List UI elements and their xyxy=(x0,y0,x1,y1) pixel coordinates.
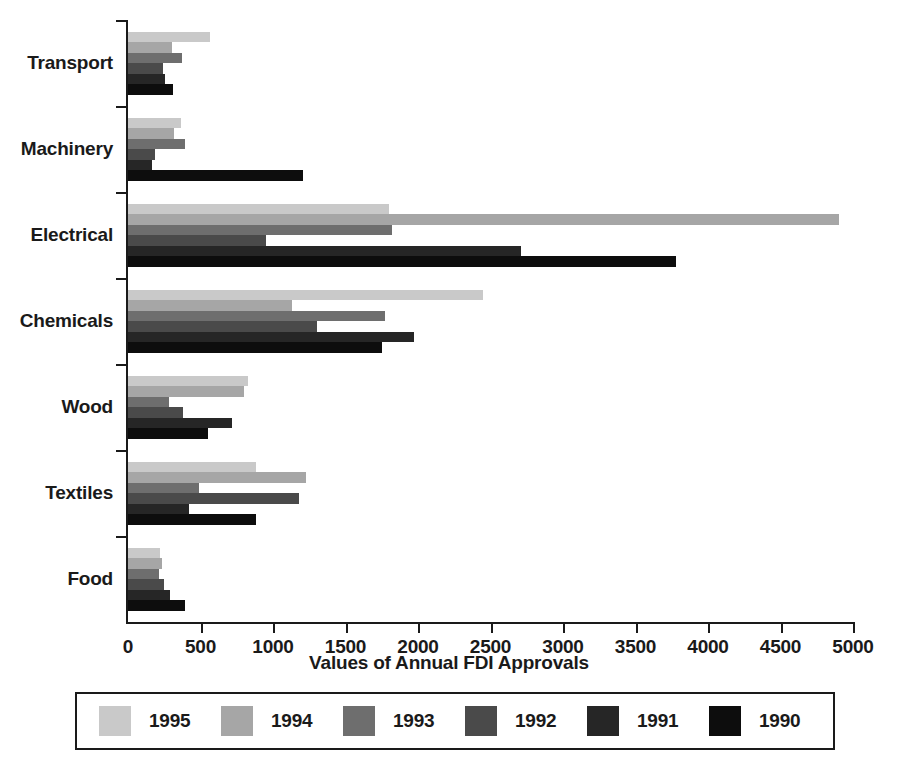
bar-food-1993 xyxy=(128,569,159,580)
y-axis-tick xyxy=(116,192,127,194)
bar-machinery-1992 xyxy=(128,149,155,160)
bar-chemicals-1994 xyxy=(128,300,292,311)
bar-wood-1993 xyxy=(128,397,169,408)
y-axis-tick xyxy=(116,106,127,108)
bar-food-1991 xyxy=(128,590,170,601)
bar-chemicals-1991 xyxy=(128,332,414,343)
bar-food-1994 xyxy=(128,558,162,569)
bar-chemicals-1995 xyxy=(128,290,483,301)
bar-machinery-1993 xyxy=(128,139,185,150)
x-axis-tick xyxy=(346,624,348,633)
bar-machinery-1991 xyxy=(128,160,152,171)
legend-swatch-1994 xyxy=(221,706,253,736)
y-axis-tick xyxy=(116,20,127,22)
legend-label-1994: 1994 xyxy=(271,710,312,732)
legend-label-1990: 1990 xyxy=(759,710,800,732)
x-axis-tick xyxy=(636,624,638,633)
bar-machinery-1990 xyxy=(128,170,303,181)
legend: 199519941993199219911990 xyxy=(75,692,835,750)
bar-food-1990 xyxy=(128,600,185,611)
bar-transport-1995 xyxy=(128,32,210,43)
bar-electrical-1993 xyxy=(128,225,392,236)
bar-transport-1994 xyxy=(128,42,172,53)
legend-entry-1995: 1995 xyxy=(99,706,190,736)
category-label-textiles: Textiles xyxy=(45,482,113,504)
legend-swatch-1991 xyxy=(587,706,619,736)
bar-textiles-1990 xyxy=(128,514,256,525)
bar-electrical-1994 xyxy=(128,214,839,225)
legend-entry-1994: 1994 xyxy=(221,706,312,736)
y-axis-tick xyxy=(116,450,127,452)
bar-chemicals-1993 xyxy=(128,311,385,322)
category-label-chemicals: Chemicals xyxy=(20,310,113,332)
bar-textiles-1993 xyxy=(128,483,199,494)
bar-chemicals-1990 xyxy=(128,342,382,353)
bar-food-1992 xyxy=(128,579,164,590)
bar-electrical-1992 xyxy=(128,235,266,246)
y-axis-tick xyxy=(116,536,127,538)
bar-electrical-1990 xyxy=(128,256,676,267)
bar-wood-1992 xyxy=(128,407,183,418)
legend-label-1991: 1991 xyxy=(637,710,678,732)
bar-textiles-1994 xyxy=(128,472,306,483)
legend-entry-1990: 1990 xyxy=(709,706,800,736)
y-axis-tick xyxy=(116,278,127,280)
bar-machinery-1995 xyxy=(128,118,181,129)
bar-machinery-1994 xyxy=(128,128,174,139)
bar-textiles-1995 xyxy=(128,462,256,473)
bar-textiles-1992 xyxy=(128,493,299,504)
plot-area: 0500100015002000250030003500400045005000 xyxy=(128,20,853,622)
bar-transport-1993 xyxy=(128,53,182,64)
legend-entry-1992: 1992 xyxy=(465,706,556,736)
x-axis-tick xyxy=(201,624,203,633)
bar-transport-1990 xyxy=(128,84,173,95)
legend-label-1995: 1995 xyxy=(149,710,190,732)
x-axis-title: Values of Annual FDI Approvals xyxy=(0,652,898,674)
bar-wood-1995 xyxy=(128,376,248,387)
bar-chemicals-1992 xyxy=(128,321,317,332)
bar-transport-1992 xyxy=(128,63,163,74)
category-label-wood: Wood xyxy=(61,396,113,418)
legend-label-1992: 1992 xyxy=(515,710,556,732)
legend-swatch-1992 xyxy=(465,706,497,736)
bar-electrical-1991 xyxy=(128,246,521,257)
bar-wood-1994 xyxy=(128,386,244,397)
legend-entry-1993: 1993 xyxy=(343,706,434,736)
bar-food-1995 xyxy=(128,548,160,559)
legend-swatch-1995 xyxy=(99,706,131,736)
category-label-machinery: Machinery xyxy=(21,138,113,160)
y-axis-tick xyxy=(116,364,127,366)
bar-textiles-1991 xyxy=(128,504,189,515)
legend-swatch-1990 xyxy=(709,706,741,736)
bar-transport-1991 xyxy=(128,74,165,85)
fdi-approvals-bar-chart: 0500100015002000250030003500400045005000… xyxy=(0,0,898,763)
category-label-electrical: Electrical xyxy=(31,224,114,246)
x-axis-tick xyxy=(491,624,493,633)
legend-label-1993: 1993 xyxy=(393,710,434,732)
category-label-transport: Transport xyxy=(27,52,113,74)
x-axis-tick xyxy=(781,624,783,633)
x-axis-tick xyxy=(563,624,565,633)
legend-swatch-1993 xyxy=(343,706,375,736)
x-axis-tick xyxy=(273,624,275,633)
category-label-food: Food xyxy=(67,568,113,590)
bar-wood-1990 xyxy=(128,428,208,439)
x-axis-tick xyxy=(418,624,420,633)
x-axis-tick xyxy=(708,624,710,633)
bar-electrical-1995 xyxy=(128,204,389,215)
bar-wood-1991 xyxy=(128,418,232,429)
legend-entry-1991: 1991 xyxy=(587,706,678,736)
x-axis-tick xyxy=(853,624,855,633)
